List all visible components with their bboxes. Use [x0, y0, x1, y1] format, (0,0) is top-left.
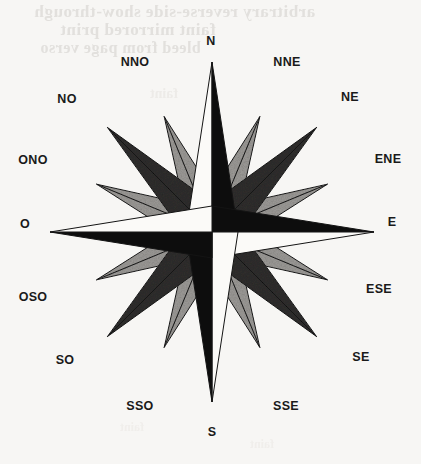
compass-label-s: S: [208, 425, 217, 439]
compass-rose-page: arbitrary reverse-side show-through fain…: [0, 0, 421, 464]
compass-label-n: N: [206, 34, 215, 48]
compass-label-se: SE: [352, 350, 369, 364]
compass-label-nne: NNE: [273, 55, 300, 69]
compass-label-no: NO: [57, 92, 76, 106]
compass-label-nno: NNO: [121, 55, 150, 69]
compass-label-sso: SSO: [126, 399, 153, 413]
compass-point-o-ccw-half: [50, 232, 212, 258]
compass-point-s-ccw-half: [212, 232, 238, 402]
compass-rose-figure: [0, 0, 421, 464]
compass-label-ne: NE: [341, 90, 359, 104]
compass-label-sse: SSE: [273, 399, 299, 413]
compass-label-ese: ESE: [366, 282, 392, 296]
compass-label-oso: OSO: [19, 290, 48, 304]
compass-point-e-ccw-half: [212, 206, 374, 232]
compass-label-o: O: [20, 217, 30, 231]
compass-label-e: E: [388, 215, 397, 229]
compass-label-ono: ONO: [18, 153, 47, 167]
compass-label-ene: ENE: [375, 152, 402, 166]
compass-points-cardinal: [50, 62, 374, 402]
compass-point-o-cw-half: [50, 206, 212, 232]
compass-point-o: [50, 206, 212, 258]
compass-label-so: SO: [56, 353, 75, 367]
